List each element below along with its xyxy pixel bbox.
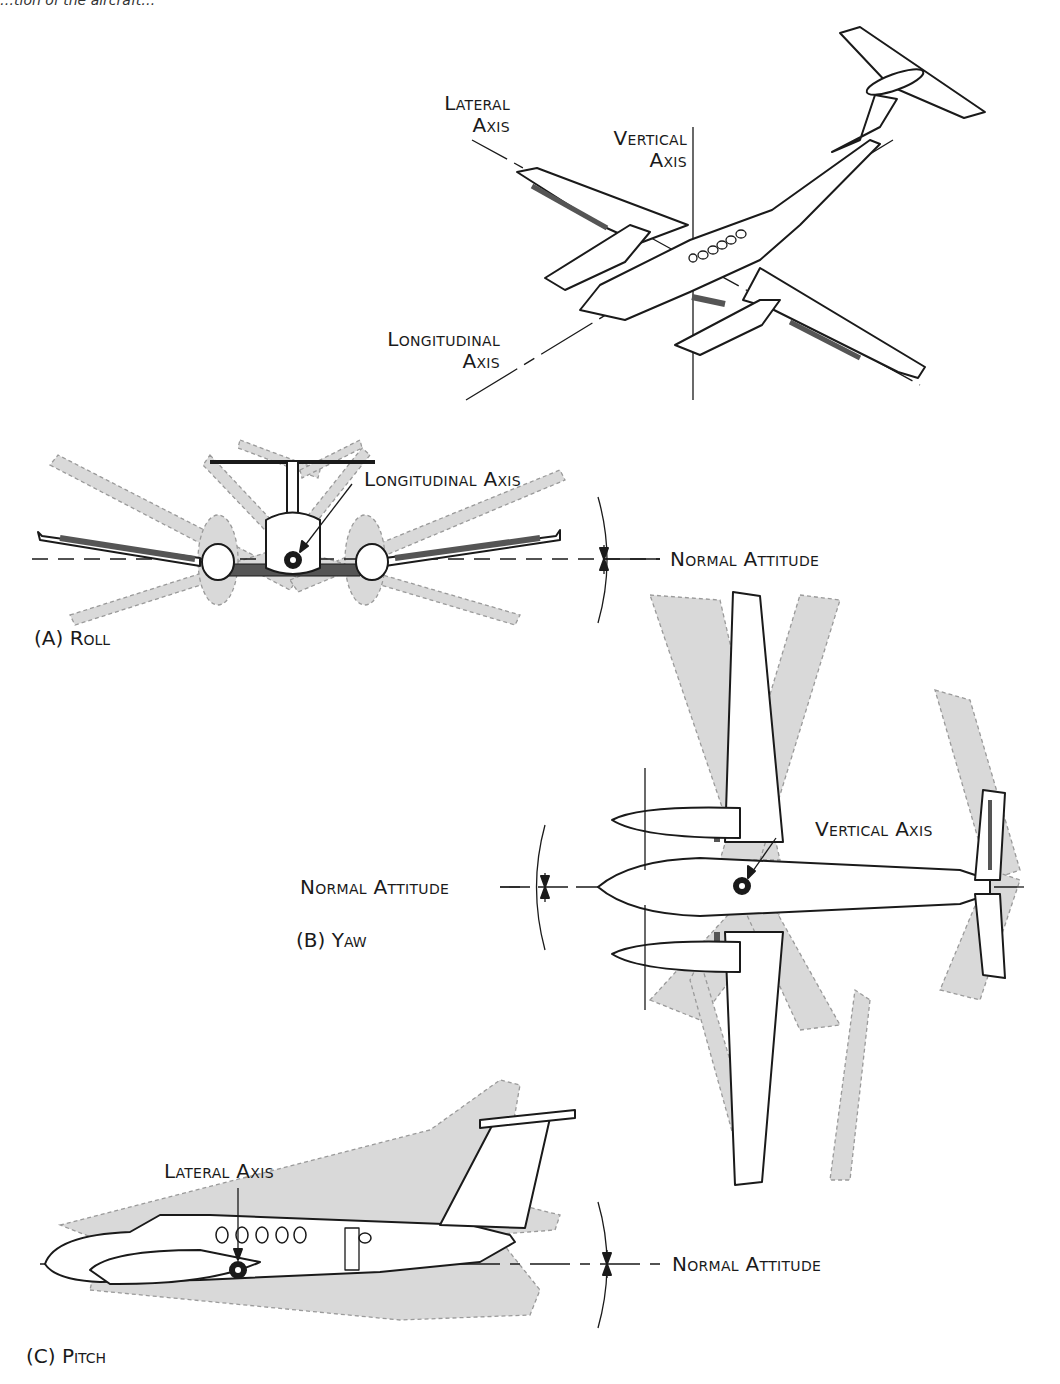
pitch-caption: (C) Pitch — [26, 1344, 106, 1368]
yaw-normal-attitude-label: Normal Attitude — [300, 876, 449, 898]
pitch-normal-attitude-label: Normal Attitude — [672, 1253, 821, 1275]
pitch-axis-label: Lateral Axis — [164, 1160, 274, 1182]
roll-caption: (A) Roll — [34, 626, 110, 650]
roll-axis-label: Longitudinal Axis — [364, 468, 521, 490]
lateral-axis-label-line1: Lateral — [410, 92, 510, 114]
vertical-axis-label: Vertical Axis — [585, 127, 687, 171]
roll-normal-attitude-label: Normal Attitude — [670, 548, 819, 570]
yaw-axis-label: Vertical Axis — [815, 818, 933, 840]
longitudinal-axis-label-line2: Axis — [340, 350, 500, 372]
lateral-axis-label-line2: Axis — [410, 114, 510, 136]
figure-canvas — [0, 0, 1060, 1384]
yaw-caption: (B) Yaw — [296, 928, 367, 952]
vertical-axis-label-line1: Vertical — [585, 127, 687, 149]
vertical-axis-label-line2: Axis — [585, 149, 687, 171]
longitudinal-axis-label-line1: Longitudinal — [340, 328, 500, 350]
isometric-aircraft — [466, 27, 985, 400]
lateral-axis-label: Lateral Axis — [410, 92, 510, 136]
yaw-aircraft — [500, 592, 1025, 1185]
longitudinal-axis-label: Longitudinal Axis — [340, 328, 500, 372]
